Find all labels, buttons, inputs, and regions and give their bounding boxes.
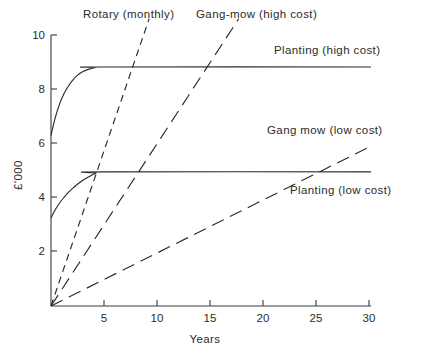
x-tick-label-5: 5 <box>101 312 107 324</box>
x-tick-label-20: 20 <box>257 312 270 324</box>
y-tick-label-8: 8 <box>39 83 45 95</box>
series-label-gang-mow-low-cost: Gang mow (low cost) <box>267 124 383 136</box>
y-tick-label-4: 4 <box>39 191 46 203</box>
y-tick-label-6: 6 <box>39 137 45 149</box>
series-label-planting-low-cost: Planting (low cost) <box>290 184 392 196</box>
x-tick-label-25: 25 <box>310 312 323 324</box>
series-line-rotary-monthly <box>51 19 149 306</box>
x-axis-title: Years <box>190 333 221 345</box>
x-tick-label-15: 15 <box>204 312 217 324</box>
y-tick-label-2: 2 <box>39 245 45 257</box>
x-axis-ticks <box>104 300 369 306</box>
line-chart: 10 8 6 4 2 5 10 15 20 25 30 Years £'000 … <box>0 0 424 354</box>
series-label-gang-mow-high-cost: Gang-mow (high cost) <box>196 8 317 20</box>
series-label-rotary-monthly: Rotary (monthly) <box>83 8 174 20</box>
y-axis-title: £'000 <box>12 160 24 190</box>
y-tick-label-10: 10 <box>32 29 45 41</box>
series-label-planting-high-cost: Planting (high cost) <box>274 44 380 56</box>
x-tick-label-10: 10 <box>151 312 164 324</box>
series-line-gang-mow-low-cost <box>51 146 371 306</box>
chart-container: 10 8 6 4 2 5 10 15 20 25 30 Years £'000 … <box>0 0 424 354</box>
x-tick-label-30: 30 <box>363 312 376 324</box>
y-axis-ticks <box>51 35 57 251</box>
series-line-gang-mow-high-cost <box>51 19 239 306</box>
